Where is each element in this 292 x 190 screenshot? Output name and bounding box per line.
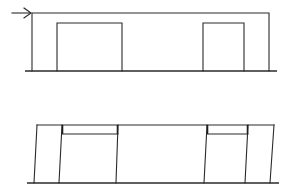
opening-right [203, 23, 244, 71]
column-1 [34, 125, 37, 183]
lintel-left [62, 125, 118, 134]
column-6 [270, 125, 274, 183]
top-frame [12, 8, 277, 71]
opening-left [57, 23, 122, 71]
outer-frame [32, 13, 269, 71]
lintel-right [207, 125, 248, 134]
load-arrow-icon [12, 8, 31, 18]
bottom-frame [27, 125, 279, 183]
diagram-canvas [0, 0, 292, 190]
frame-diagram [0, 0, 292, 190]
